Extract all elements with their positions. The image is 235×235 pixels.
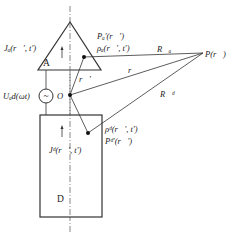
label-rho-d: ρᵈ(r⃗′, t′) [104,124,138,134]
label-r: r⃗ [128,65,138,75]
label-rho-a: ρₐ(r⃗′, t′) [96,43,130,53]
source-point-a [82,55,86,59]
vector-R-d [88,53,203,133]
label-body-d: D [57,194,64,204]
label-body-a: A [43,58,50,68]
label-origin: O [57,91,63,101]
label-R-d: R⃗ᵈ [159,89,175,99]
label-R-a: R⃗ₐ [156,44,172,54]
label-p-d: Pᵈ′(r⃗′) [104,136,132,146]
origin-point [68,93,72,97]
label-j-a: Jₐ(r⃗′, t′) [4,43,36,53]
label-point-p: P(r⃗) [204,49,226,59]
label-source: Uₐd(ωt) [3,91,30,101]
body-d-rectangle [40,115,102,217]
vector-R-a [84,53,203,57]
label-r-prime: r⃗′ [79,74,91,84]
label-j-d: Jᵈ(r⃗′, t′) [49,145,81,155]
antenna-diagram: ~ A D O P(r⃗) Uₐd(ωt) Jₐ(r⃗′, t′) Jᵈ(r⃗′… [0,0,235,235]
ac-source-symbol: ~ [43,91,48,101]
label-p-a: Pₐ′(r⃗′) [96,31,124,41]
source-point-d [86,131,90,135]
